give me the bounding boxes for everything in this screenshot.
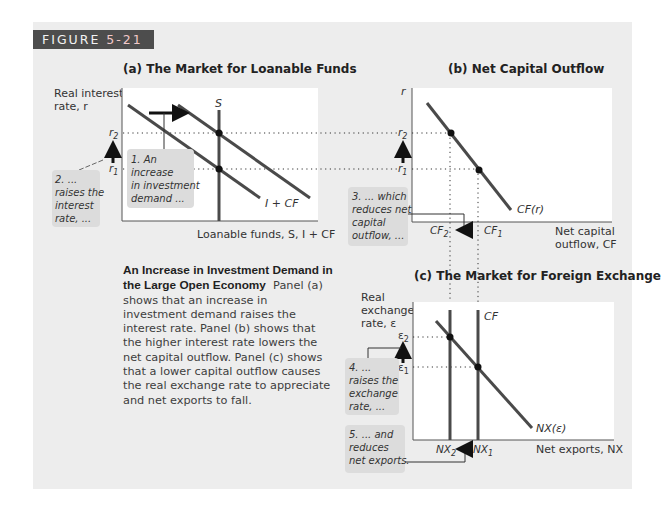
cf-curve-label: CF(r) (517, 203, 544, 216)
tick-r2-a: r2 (109, 126, 118, 141)
demand-label: I + CF (265, 197, 299, 210)
nx-point-2 (447, 334, 454, 341)
equilibrium-r1 (216, 166, 223, 173)
panel-c-ylabel-3: rate, ε (361, 317, 396, 330)
panel-b-title: (b) Net Capital Outflow (448, 62, 604, 76)
panel-b-xlabel-1: Net capital (555, 225, 615, 238)
panel-b-xlabel-2: outflow, CF (555, 238, 617, 251)
figure-caption: An Increase in Investment Demand in the … (123, 263, 333, 408)
panel-b-plot-area (412, 88, 612, 222)
note2-connector (79, 160, 103, 170)
cf-point-1 (476, 167, 483, 174)
cf-supply-label: CF (484, 310, 499, 323)
panel-c-ylabel-2: exchange (361, 304, 415, 317)
panel-c: (c) The Market for Foreign Exchange Real… (345, 269, 661, 473)
figure-diagram: (a) The Market for Loanable Funds Real i… (0, 0, 664, 513)
panel-c-plot-area (413, 302, 614, 440)
panel-a-ylabel-1: Real interest (54, 87, 124, 100)
cf-point-2 (448, 130, 455, 137)
tick-cf1: CF1 (484, 224, 502, 239)
panel-c-xlabel: Net exports, NX (536, 443, 623, 456)
panel-a-xlabel: Loanable funds, S, I + CF (197, 228, 335, 241)
supply-label: S (215, 97, 222, 110)
caption-body: Panel (a) shows that an increase in inve… (123, 279, 330, 406)
panel-a: (a) The Market for Loanable Funds Real i… (52, 62, 400, 241)
tick-e1: ε1 (398, 361, 409, 376)
tick-r2-b: r2 (398, 126, 407, 141)
panel-a-ylabel-2: rate, r (54, 100, 88, 113)
tick-e2: ε2 (398, 329, 409, 344)
tick-nx2: NX2 (436, 443, 456, 458)
panel-c-ylabel-1: Real (361, 291, 385, 304)
panel-b-ylabel: r (401, 85, 407, 98)
note4-connector (368, 348, 401, 358)
panel-a-title: (a) The Market for Loanable Funds (123, 62, 357, 76)
tick-r1-a: r1 (109, 162, 118, 177)
nx-curve-label: NX(ε) (536, 422, 566, 435)
equilibrium-r2 (216, 130, 223, 137)
tick-cf2: CF2 (430, 224, 448, 239)
panel-c-title: (c) The Market for Foreign Exchange (414, 269, 661, 283)
tick-r1-b: r1 (398, 162, 407, 177)
tick-nx1: NX1 (473, 443, 493, 458)
nx-point-1 (475, 364, 482, 371)
